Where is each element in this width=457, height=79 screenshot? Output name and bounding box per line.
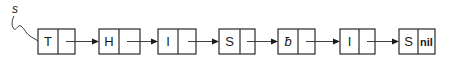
head-pointer: s (12, 2, 38, 41)
arrow-head-icon (392, 39, 399, 45)
linked-list-diagram: s T H I S ƀ (0, 0, 457, 79)
list-node-tail: S nil (399, 29, 435, 54)
head-pointer-label: s (12, 2, 18, 16)
node-data: I (166, 34, 170, 49)
node-data-blank-symbol: ƀ (284, 34, 291, 49)
node-data: H (104, 34, 113, 49)
node-data: S (225, 34, 234, 49)
node-data: S (404, 34, 413, 49)
node-data: T (44, 34, 52, 49)
nil-pointer-label: nil (420, 36, 433, 48)
arrow-head-icon (333, 39, 340, 45)
arrow-head-icon (212, 39, 219, 45)
arrow-head-icon (151, 39, 158, 45)
arrow-head-icon (92, 39, 99, 45)
head-pointer-curve (12, 16, 38, 41)
node-data: I (348, 34, 352, 49)
arrow-head-icon (271, 39, 278, 45)
